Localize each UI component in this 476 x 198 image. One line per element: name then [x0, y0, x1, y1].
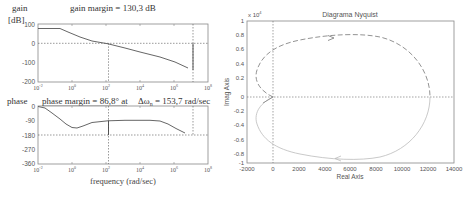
- nyquist-xtick: 0: [271, 166, 275, 172]
- nyquist-xlabel: Real Axis: [336, 173, 364, 180]
- gain-xtick: 102: [102, 83, 110, 91]
- nyquist-ytick: -0.4: [234, 122, 245, 128]
- nyquist-ytick: 0.4: [236, 61, 245, 67]
- nyquist-ylabel: Imag Axis: [223, 77, 231, 106]
- nyquist-ytick: -0.2: [234, 108, 245, 114]
- nyquist-xtick: -2000: [239, 166, 255, 172]
- nyquist-xtick: 6000: [343, 166, 357, 172]
- nyquist-xtick: 14000: [446, 166, 463, 172]
- gain-xtick: 100: [68, 83, 76, 91]
- nyquist-xtick: 2000: [292, 166, 306, 172]
- phase-ytick: 0: [31, 103, 35, 110]
- gain-ytick: -100: [22, 59, 35, 66]
- phase-xtick: 106: [170, 165, 178, 173]
- phase-title: phase margin = 86,8° at: [42, 96, 128, 106]
- gain-title: gain margin = 130,3 dB: [70, 3, 156, 13]
- gain-axes-box: [38, 24, 208, 82]
- phase-title-2: Δωn = 153,7 rad/sec: [138, 96, 210, 107]
- nyquist-ytick: 0.2: [236, 75, 245, 81]
- gain-xtick: 10-2: [33, 83, 42, 91]
- nyquist-xtick: 4000: [318, 166, 332, 172]
- phase-xtick: 100: [68, 165, 76, 173]
- nyquist-axes-box: [247, 21, 454, 163]
- gain-ytick: 100: [24, 21, 35, 28]
- figure: gain [dB] gain margin = 130,3 dB 100 0 -…: [0, 0, 476, 198]
- frequency-xlabel: frequency (rad/sec): [90, 176, 156, 186]
- phase-plot: phase phase margin = 86,8° at Δωn = 153,…: [7, 96, 212, 186]
- phase-xtick: 102: [102, 165, 110, 173]
- phase-ytick: -90: [26, 117, 36, 124]
- nyquist-ytick: -0.6: [234, 137, 245, 143]
- phase-ytick: -180: [22, 132, 35, 139]
- gain-ylabel-line1: gain: [12, 3, 28, 13]
- phase-ylabel: phase: [7, 96, 28, 106]
- nyquist-ytick: 0.6: [236, 46, 245, 52]
- nyquist-title: Diagrama Nyquist: [322, 11, 378, 19]
- phase-ytick: -270: [22, 146, 35, 153]
- nyquist-ytick: 1: [241, 18, 245, 24]
- nyquist-y-multiplier: x 104: [248, 10, 262, 18]
- gain-xtick: 106: [170, 83, 178, 91]
- phase-ytick: -360: [22, 160, 35, 167]
- gain-ytick: -200: [22, 78, 35, 85]
- nyquist-xtick: 8000: [369, 166, 383, 172]
- nyquist-xtick: 10000: [394, 166, 411, 172]
- gain-plot: gain [dB] gain margin = 130,3 dB 100 0 -…: [8, 3, 212, 91]
- gain-ylabel-line2: [dB]: [8, 15, 25, 25]
- gain-ytick: 0: [31, 40, 35, 47]
- phase-xtick: 10-2: [33, 165, 42, 173]
- phase-xtick: 108: [204, 165, 212, 173]
- nyquist-ytick: 0.8: [236, 32, 245, 38]
- nyquist-plot: Diagrama Nyquist x 104 1 0.8 0.6 0.4 0.2…: [223, 10, 463, 180]
- nyquist-ytick: -0.8: [234, 151, 245, 157]
- gain-xtick: 104: [136, 83, 144, 91]
- phase-xtick: 104: [136, 165, 144, 173]
- nyquist-xtick: 12000: [420, 166, 437, 172]
- gain-xtick: 108: [204, 83, 212, 91]
- nyquist-ytick: 0: [241, 94, 245, 100]
